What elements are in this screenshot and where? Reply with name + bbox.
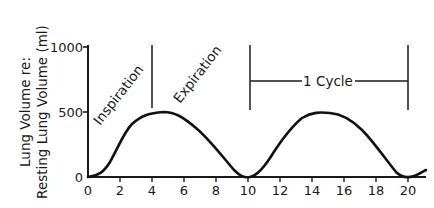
cycle-label: 1 Cycle — [303, 73, 353, 89]
expiration-label: Expiration — [170, 42, 225, 106]
y-tick-label: 0 — [75, 170, 83, 185]
x-tick-label: 16 — [336, 183, 353, 198]
x-tick-labels: 0 2 4 6 8 10 12 14 16 18 20 — [84, 183, 416, 198]
lung-volume-curve — [88, 112, 426, 177]
x-tick-label: 2 — [116, 183, 124, 198]
x-tick-label: 20 — [400, 183, 417, 198]
x-tick-label: 10 — [240, 183, 257, 198]
x-tick-label: 6 — [180, 183, 188, 198]
y-axis-label-line1: Lung Volume re: — [17, 57, 33, 167]
x-tick-label: 8 — [212, 183, 220, 198]
y-tick-label: 1000 — [50, 40, 83, 55]
y-axis-label: Lung Volume re: Resting Lung Volume (ml) — [17, 25, 50, 199]
x-tick-label: 18 — [368, 183, 385, 198]
x-tick-label: 14 — [304, 183, 321, 198]
y-axis-label-line2: Resting Lung Volume (ml) — [34, 25, 50, 199]
y-tick-label: 500 — [58, 105, 83, 120]
x-tick-label: 12 — [272, 183, 289, 198]
lung-volume-chart: Lung Volume re: Resting Lung Volume (ml)… — [0, 0, 434, 208]
x-tick-label: 4 — [148, 183, 156, 198]
y-tick-labels: 1000 500 0 — [50, 40, 83, 185]
x-tick-label: 0 — [84, 183, 92, 198]
